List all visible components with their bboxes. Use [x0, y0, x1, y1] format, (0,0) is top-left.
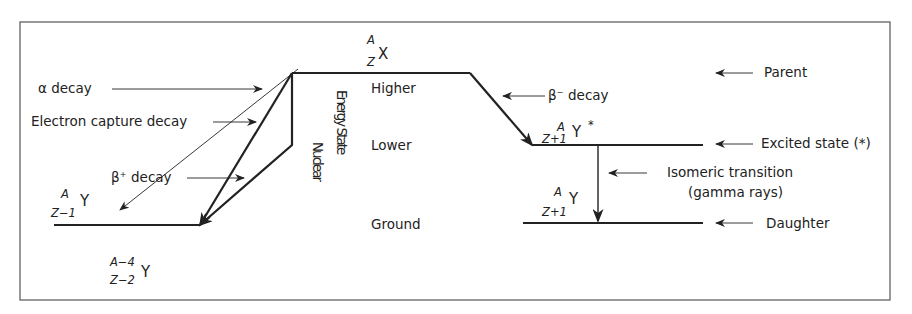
parent-mass-number: A: [366, 33, 375, 47]
electron-capture-label: Electron capture decay: [31, 113, 187, 129]
beta-minus-arrow: [470, 73, 532, 145]
electron-capture-arrow: [200, 73, 292, 225]
alpha-atomic-number: Z−2: [109, 273, 135, 287]
diagram-frame: [20, 22, 890, 300]
lower-level-label: Lower: [371, 137, 412, 153]
beta-plus-label: β⁺ decay: [111, 169, 172, 185]
nuclear-vertical-label: Nuclear: [310, 142, 326, 182]
daughter-symbol: Y: [568, 190, 579, 208]
ground-level-label: Ground: [371, 216, 421, 232]
excited-mark: *: [588, 118, 594, 132]
parent-symbol: X: [378, 45, 388, 63]
decay-diagram: A Z X A Z+1 Y * A Z+1 Y A Z−1 Y A−4 Z−2 …: [0, 0, 912, 314]
alpha-symbol: Y: [140, 263, 151, 281]
energy-state-vertical-label: Energy State: [334, 90, 350, 155]
alpha-mass-number: A−4: [109, 255, 135, 269]
excited-state-label: Excited state (*): [761, 135, 871, 151]
higher-level-label: Higher: [371, 80, 416, 96]
alpha-decay-label: α decay: [38, 80, 92, 96]
daughter-atomic-number: Z+1: [541, 205, 567, 219]
isomeric-transition-label: Isomeric transition: [667, 164, 793, 180]
excited-symbol: Y: [571, 123, 582, 141]
beta-minus-label: β⁻ decay: [548, 87, 609, 103]
parent-label: Parent: [764, 64, 807, 80]
ec-symbol: Y: [79, 192, 90, 210]
daughter-label: Daughter: [766, 215, 830, 231]
ec-atomic-number: Z−1: [50, 206, 76, 220]
excited-atomic-number: Z+1: [541, 132, 567, 146]
alpha-arrow: [120, 69, 298, 210]
ec-mass-number: A: [60, 187, 69, 201]
daughter-mass-number: A: [553, 185, 562, 199]
gamma-rays-label: (gamma rays): [688, 184, 783, 200]
parent-atomic-number: Z: [366, 55, 376, 69]
